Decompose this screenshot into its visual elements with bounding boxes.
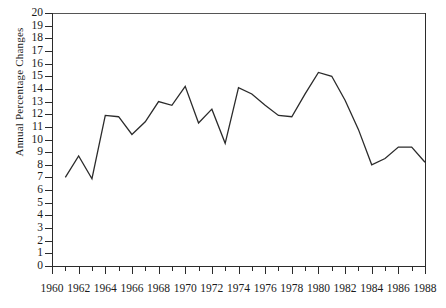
y-axis-tick <box>45 165 52 166</box>
y-axis-tick <box>45 253 52 254</box>
y-axis-tick <box>45 190 52 191</box>
y-axis-tick <box>45 76 52 77</box>
y-axis-tick <box>45 215 52 216</box>
y-axis-tick <box>45 38 52 39</box>
data-series-line <box>0 0 446 308</box>
y-axis-tick <box>45 152 52 153</box>
line-chart: Annual Percentage Changes 20191817161514… <box>0 0 446 308</box>
y-axis-tick <box>45 203 52 204</box>
y-axis-tick <box>45 13 52 14</box>
y-axis-tick <box>45 26 52 27</box>
y-axis-tick <box>45 89 52 90</box>
y-axis-tick <box>45 64 52 65</box>
y-axis-tick <box>45 140 52 141</box>
y-axis-tick <box>45 114 52 115</box>
y-axis-tick <box>45 177 52 178</box>
y-axis-tick <box>45 228 52 229</box>
y-axis-tick <box>45 102 52 103</box>
y-axis-tick <box>45 127 52 128</box>
y-axis-tick <box>45 266 52 267</box>
y-axis-tick <box>45 241 52 242</box>
y-axis-tick <box>45 51 52 52</box>
